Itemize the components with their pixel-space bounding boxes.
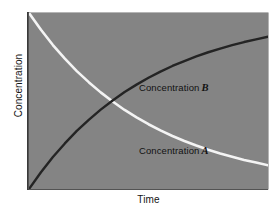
chart-figure: ConcentrationB ConcentrationA Concentrat… [0,0,275,215]
annotation-b-text: Concentration [139,82,199,93]
annotation-concentration-b: ConcentrationB [139,82,209,93]
curves-svg [29,13,268,189]
annotation-b-symbol: B [199,82,208,93]
annotation-a-symbol: A [199,145,208,156]
x-axis-title: Time [29,194,268,205]
annotation-a-text: Concentration [139,145,199,156]
annotation-concentration-a: ConcentrationA [139,145,209,156]
plot-area: ConcentrationB ConcentrationA [29,13,268,189]
y-axis-title: Concentration [13,26,24,146]
